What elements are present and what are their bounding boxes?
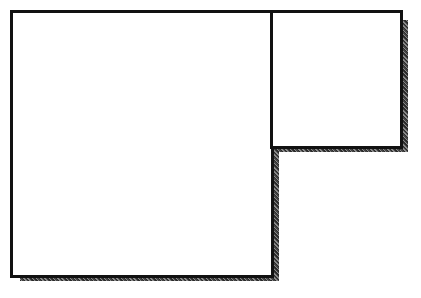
small-panel bbox=[270, 10, 403, 149]
large-panel bbox=[10, 10, 274, 278]
